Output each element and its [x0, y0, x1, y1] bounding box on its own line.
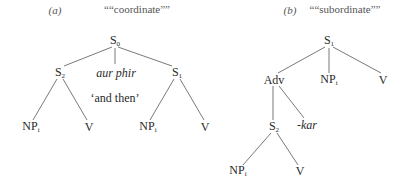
tree-edges [0, 0, 411, 189]
label-prefix: (b) [284, 4, 297, 16]
edge [118, 47, 172, 66]
node-v: V [296, 165, 305, 177]
label-prefix: (a) [49, 4, 62, 16]
edge [64, 47, 112, 66]
node-np-i: NPi [229, 164, 246, 178]
edge [278, 47, 325, 73]
node-s0: S0 [110, 34, 120, 48]
gloss-and-then: ‘and then’ [91, 92, 140, 104]
node-v: V [201, 121, 210, 133]
edge [279, 86, 304, 118]
diagram-a-title: ““coordinate”” [104, 4, 170, 15]
diagram-b-title: ““subordinate”” [310, 4, 381, 15]
diagram-b-label: (b) [284, 5, 297, 16]
edge [243, 133, 271, 165]
edge [333, 47, 381, 73]
node-s2: S2 [55, 66, 65, 80]
edge [277, 133, 298, 165]
edge [180, 79, 204, 120]
edge [150, 79, 174, 120]
diagram-a-label: (a) [49, 5, 62, 16]
node-s2: S2 [269, 120, 279, 134]
node-adv: Adv [264, 74, 285, 86]
node-np-i: NPi [22, 120, 39, 134]
edge [63, 79, 87, 120]
node-s1: S1 [324, 34, 334, 48]
node-kar-suffix: -kar [297, 119, 317, 131]
node-aur-phir: aur phir [96, 67, 136, 79]
edge [33, 79, 57, 120]
node-v: V [379, 74, 388, 86]
node-v: V [85, 121, 94, 133]
node-np-i: NPi [139, 120, 156, 134]
node-s1: S1 [172, 66, 182, 80]
node-np-i: NPi [320, 73, 337, 87]
